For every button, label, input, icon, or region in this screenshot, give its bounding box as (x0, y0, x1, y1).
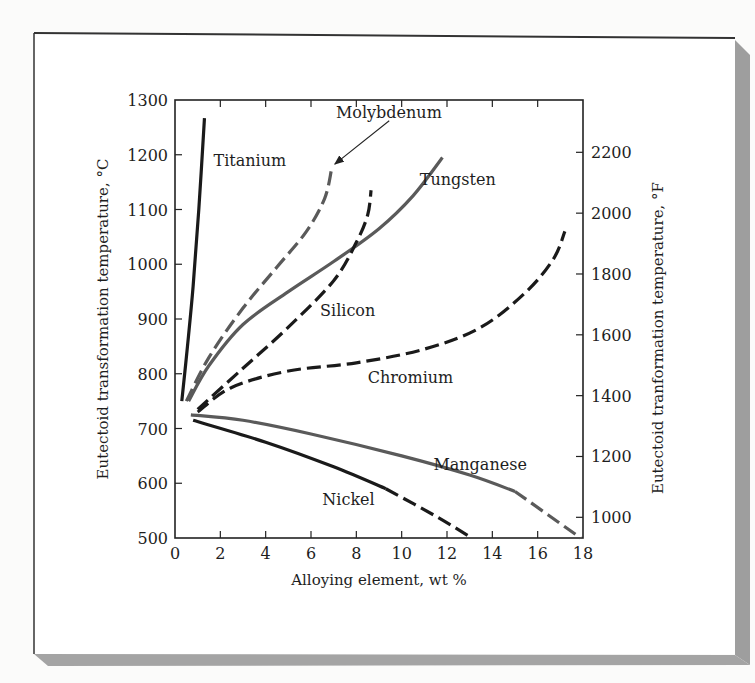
y-tick-label-left: 900 (137, 310, 168, 329)
y-tick-label-left: 1100 (127, 201, 168, 220)
y-tick-label-right: 1600 (591, 326, 632, 345)
y-tick-label-left: 1000 (127, 255, 168, 274)
x-tick-label: 6 (306, 544, 316, 563)
y-tick-label-left: 1300 (127, 91, 168, 110)
series-label-chromium: Chromium (368, 368, 454, 387)
y-tick-label-right: 2200 (591, 143, 632, 162)
x-tick-label: 10 (391, 544, 411, 563)
series-label-silicon: Silicon (320, 301, 375, 320)
x-tick-label: 14 (482, 544, 502, 563)
y-tick-label-left: 800 (137, 365, 168, 384)
series-label-tungsten: Tungsten (420, 170, 496, 189)
y-tick-label-left: 600 (137, 474, 168, 493)
y-tick-label-left: 1200 (127, 146, 168, 165)
x-tick-label: 4 (261, 544, 271, 563)
y-tick-label-right: 1200 (591, 447, 632, 466)
y-tick-label-left: 500 (137, 529, 168, 548)
series-label-nickel: Nickel (322, 490, 374, 509)
x-axis-label: Alloying element, wt % (290, 571, 467, 589)
series-label-manganese: Manganese (433, 455, 526, 474)
x-tick-label: 18 (573, 544, 593, 563)
series-label-molybdenum: Molybdenum (336, 103, 442, 122)
x-tick-label: 2 (215, 544, 225, 563)
x-tick-label: 12 (437, 544, 457, 563)
y-tick-label-right: 1000 (591, 508, 632, 527)
figure: 0246810121416185006007008009001000110012… (0, 0, 755, 683)
y-tick-label-right: 1800 (591, 265, 632, 284)
y-tick-label-right: 1400 (591, 387, 632, 406)
series-label-titanium: Titanium (214, 151, 287, 170)
x-tick-label: 8 (351, 544, 361, 563)
y-axis-label-right: Eutectoid tranformation temperature, °F (649, 182, 667, 494)
x-tick-label: 0 (170, 544, 180, 563)
x-tick-label: 16 (527, 544, 547, 563)
frame-shadow-bottom (34, 654, 750, 666)
y-axis-label-left: Eutectoid transformation temperature, °C (94, 159, 112, 480)
frame-shadow-right (735, 40, 750, 665)
y-tick-label-right: 2000 (591, 204, 632, 223)
y-tick-label-left: 700 (137, 420, 168, 439)
